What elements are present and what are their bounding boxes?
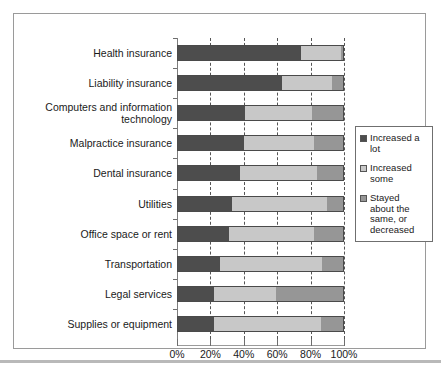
- category-label: Office space or rent: [24, 228, 172, 240]
- bar-segment[interactable]: [322, 256, 344, 272]
- bar-row[interactable]: [177, 135, 344, 151]
- category-label-line: Transportation: [24, 258, 172, 270]
- bar-segment[interactable]: [177, 196, 232, 212]
- legend-label-line: some: [370, 174, 412, 185]
- bar-row[interactable]: [177, 105, 344, 121]
- category-label: Legal services: [24, 288, 172, 300]
- bar-segment[interactable]: [341, 45, 344, 61]
- gridline: [344, 38, 345, 339]
- legend-label-line: Increased: [370, 163, 412, 174]
- y-axis-tick: [173, 279, 177, 280]
- y-axis-tick: [173, 219, 177, 220]
- category-label: Transportation: [24, 258, 172, 270]
- y-axis-tick: [173, 309, 177, 310]
- category-label-line: Malpractice insurance: [24, 137, 172, 149]
- x-axis-tick-label: 100%: [324, 348, 364, 360]
- x-axis-tick: [210, 339, 211, 346]
- category-label-line: Legal services: [24, 288, 172, 300]
- plot-area: [177, 38, 344, 339]
- category-label: Supplies or equipment: [24, 318, 172, 330]
- x-axis-tick: [344, 339, 345, 346]
- bar-segment[interactable]: [321, 316, 344, 332]
- category-label-line: Computers and information: [24, 101, 172, 113]
- bar-segment[interactable]: [177, 226, 229, 242]
- y-axis-tick: [173, 249, 177, 250]
- category-label: Dental insurance: [24, 167, 172, 179]
- legend-label-line: Increased a: [370, 133, 420, 144]
- bar-row[interactable]: [177, 256, 344, 272]
- bar-segment[interactable]: [220, 256, 322, 272]
- category-label: Health insurance: [24, 47, 172, 59]
- legend-item[interactable]: Increasedsome: [360, 163, 428, 184]
- category-label-line: technology: [24, 113, 172, 125]
- legend-item[interactable]: Stayedabout thesame, ordecreased: [360, 193, 428, 235]
- legend-label-line: Stayed: [370, 193, 414, 204]
- bar-segment[interactable]: [214, 316, 321, 332]
- bar-segment[interactable]: [177, 75, 282, 91]
- x-axis-tick: [177, 339, 178, 346]
- category-label: Malpractice insurance: [24, 137, 172, 149]
- bar-segment[interactable]: [177, 45, 301, 61]
- legend-swatch-icon: [360, 195, 367, 202]
- y-axis-tick: [173, 189, 177, 190]
- legend-swatch-icon: [360, 165, 367, 172]
- category-label-line: Office space or rent: [24, 228, 172, 240]
- legend-label-line: same, or: [370, 214, 414, 225]
- bar-segment[interactable]: [177, 105, 245, 121]
- bar-segment[interactable]: [312, 105, 344, 121]
- category-label: Liability insurance: [24, 77, 172, 89]
- bar-segment[interactable]: [282, 75, 332, 91]
- bar-row[interactable]: [177, 286, 344, 302]
- bar-segment[interactable]: [177, 286, 214, 302]
- bar-segment[interactable]: [244, 135, 314, 151]
- y-axis-tick: [173, 98, 177, 99]
- bar-segment[interactable]: [240, 165, 317, 181]
- bar-segment[interactable]: [314, 135, 344, 151]
- bar-segment[interactable]: [232, 196, 327, 212]
- bar-segment[interactable]: [229, 226, 314, 242]
- bottom-shadow-divider: [0, 360, 441, 363]
- chart-frame: Health insuranceLiability insuranceCompu…: [13, 13, 426, 349]
- bar-segment[interactable]: [177, 256, 220, 272]
- bar-segment[interactable]: [177, 135, 244, 151]
- legend-label: Increased alot: [370, 133, 420, 154]
- bar-row[interactable]: [177, 45, 344, 61]
- bar-row[interactable]: [177, 196, 344, 212]
- chart-legend: Increased alotIncreasedsomeStayedabout t…: [355, 126, 433, 242]
- bar-segment[interactable]: [177, 316, 214, 332]
- bar-segment[interactable]: [301, 45, 341, 61]
- bar-segment[interactable]: [214, 286, 276, 302]
- category-axis-labels: Health insuranceLiability insuranceCompu…: [22, 38, 172, 339]
- y-axis-tick: [173, 158, 177, 159]
- bar-row[interactable]: [177, 75, 344, 91]
- bar-segment[interactable]: [177, 165, 240, 181]
- y-axis-tick: [173, 128, 177, 129]
- bar-row[interactable]: [177, 316, 344, 332]
- category-label-line: Liability insurance: [24, 77, 172, 89]
- bar-segment[interactable]: [327, 196, 344, 212]
- bar-segment[interactable]: [317, 165, 344, 181]
- x-axis-line: [177, 345, 345, 346]
- x-axis-tick: [277, 339, 278, 346]
- bar-row[interactable]: [177, 226, 344, 242]
- x-axis-tick: [244, 339, 245, 346]
- legend-label-line: lot: [370, 144, 420, 155]
- legend-label: Stayedabout thesame, ordecreased: [370, 193, 414, 235]
- category-label-line: Dental insurance: [24, 167, 172, 179]
- legend-item[interactable]: Increased alot: [360, 133, 428, 154]
- bar-segment[interactable]: [332, 75, 344, 91]
- category-label-line: Supplies or equipment: [24, 318, 172, 330]
- bar-segment[interactable]: [276, 286, 344, 302]
- category-label: Computers and informationtechnology: [24, 101, 172, 125]
- category-label: Utilities: [24, 198, 172, 210]
- legend-swatch-icon: [360, 135, 367, 142]
- category-label-line: Health insurance: [24, 47, 172, 59]
- bar-segment[interactable]: [245, 105, 312, 121]
- legend-label-line: decreased: [370, 225, 414, 236]
- bar-row[interactable]: [177, 165, 344, 181]
- bar-segment[interactable]: [314, 226, 344, 242]
- x-axis-tick: [311, 339, 312, 346]
- y-axis-tick: [173, 38, 177, 39]
- y-axis-tick: [173, 68, 177, 69]
- category-label-line: Utilities: [24, 198, 172, 210]
